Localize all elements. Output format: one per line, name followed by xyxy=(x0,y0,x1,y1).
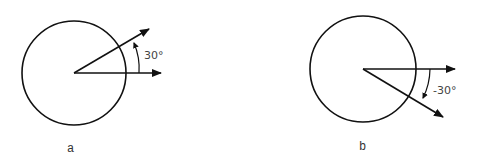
caption-a: a xyxy=(67,143,74,155)
angle-label-a: 30° xyxy=(144,50,164,61)
angle-label-b: -30° xyxy=(433,85,456,96)
figure: 30° -30° a b xyxy=(0,0,481,161)
angle-arc-a xyxy=(134,43,139,73)
panel-b xyxy=(310,16,455,122)
rotated-vector-a xyxy=(74,29,149,73)
angle-arc-b xyxy=(423,69,430,98)
rotated-vector-b xyxy=(363,69,443,117)
caption-b: b xyxy=(359,141,366,153)
panel-a xyxy=(22,21,161,125)
diagram-canvas xyxy=(0,0,481,161)
